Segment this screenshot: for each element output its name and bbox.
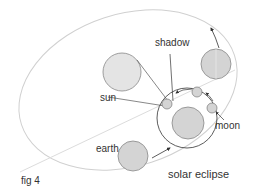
shadow-cone-lower: [108, 97, 165, 106]
earth-body-center: [172, 107, 204, 139]
moon-body-eclipse: [162, 99, 172, 109]
sun-body: [103, 53, 141, 91]
shadow-cone-upper: [137, 60, 168, 101]
sun-label: sun: [100, 93, 116, 103]
earth-label: earth: [96, 144, 119, 154]
moon-label: moon: [215, 121, 240, 131]
moon-body-right: [207, 103, 217, 113]
moon-body-top: [192, 87, 202, 97]
shadow-pointer: [170, 54, 173, 101]
figure-caption: fig 4: [21, 176, 40, 186]
earth-body-bottom: [118, 141, 148, 171]
solar-eclipse-diagram: [0, 0, 256, 191]
shadow-label: shadow: [155, 38, 189, 48]
diagram-title: solar eclipse: [168, 169, 229, 180]
moon-orbit-arrow-right: [206, 93, 213, 101]
